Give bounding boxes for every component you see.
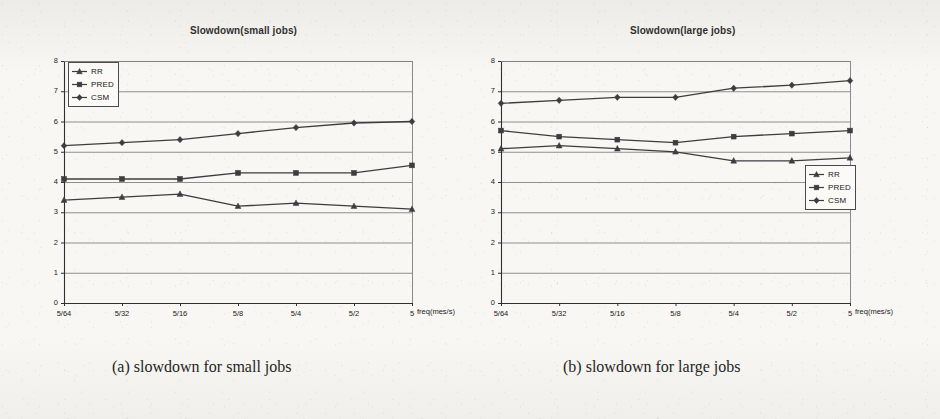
legend-marker-triangle-icon [71,67,88,76]
legend-item-csm: CSM [71,91,114,104]
y-tick-label: 5 [481,147,495,156]
datapoint-csm-2 [614,94,620,100]
legend-label: CSM [828,197,846,205]
legend-item-pred: PRED [808,181,851,194]
datapoint-pred-5 [789,131,794,136]
caption-small-jobs: (a) slowdown for small jobs [112,358,292,376]
datapoint-pred-2 [615,137,620,142]
x-tick-label: 5/32 [542,309,576,318]
legend-marker-square-icon [71,80,88,89]
legend-item-csm: CSM [808,194,851,207]
legend-label: RR [828,171,840,179]
datapoint-pred-1 [557,134,562,139]
x-tick-label: 5/4 [717,309,751,318]
legend-item-rr: RR [71,65,114,78]
datapoint-csm-1 [556,97,562,103]
datapoint-csm-5 [789,82,795,88]
caption-large-jobs: (b) slowdown for large jobs [563,358,740,376]
datapoint-pred-0 [499,128,504,133]
y-tick-label: 2 [481,238,495,247]
datapoint-csm-3 [673,94,679,100]
chart-legend: RR PRED CSM [68,62,119,107]
x-axis-label: freq(mes/s) [855,307,893,316]
legend-label: PRED [828,184,851,192]
legend-label: CSM [91,94,109,102]
y-tick-label: 4 [481,177,495,186]
plot-b-svg [0,0,940,340]
x-tick-label: 5/64 [484,309,518,318]
legend-marker-diamond-icon [71,93,88,102]
x-tick-label: 5/8 [659,309,693,318]
y-tick-label: 3 [481,207,495,216]
y-tick-label: 0 [481,298,495,307]
chart-legend: RR PRED CSM [805,165,856,210]
x-tick-label: 5/2 [775,309,809,318]
y-tick-label: 8 [481,56,495,65]
datapoint-csm-0 [498,100,504,106]
x-tick-label: 5/16 [600,309,634,318]
datapoint-pred-6 [848,128,853,133]
datapoint-pred-3 [673,140,678,145]
legend-marker-triangle-icon [808,170,825,179]
datapoint-pred-4 [731,134,736,139]
legend-item-rr: RR [808,168,851,181]
legend-label: PRED [91,81,114,89]
legend-label: RR [91,68,103,76]
legend-marker-diamond-icon [808,196,825,205]
datapoint-csm-4 [731,85,737,91]
y-tick-label: 6 [481,117,495,126]
y-tick-label: 1 [481,268,495,277]
datapoint-csm-6 [847,77,853,83]
legend-item-pred: PRED [71,78,114,91]
legend-marker-square-icon [808,183,825,192]
y-tick-label: 7 [481,86,495,95]
